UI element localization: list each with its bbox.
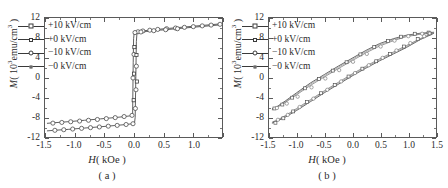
x-tick-label: 0.0: [128, 141, 140, 151]
y-minor-tick-mark: [434, 108, 436, 109]
y-tick-mark: [45, 118, 49, 119]
y-tick-mark: [218, 38, 222, 39]
x-tick-label: 1.5: [431, 141, 443, 151]
x-tick-label: 0.5: [158, 141, 170, 151]
x-tick-mark: [164, 133, 165, 137]
x-minor-tick-mark: [339, 135, 340, 137]
y-tick-mark: [45, 98, 49, 99]
legend-label: −0 kV/cm: [48, 62, 86, 72]
y-tick-mark: [269, 18, 273, 19]
y-minor-tick-mark: [45, 88, 47, 89]
y-tick-mark: [432, 98, 436, 99]
x-tick-mark: [104, 133, 105, 137]
legend-label: +0 kV/cm: [272, 35, 310, 45]
x-tick-label: -0.5: [96, 141, 111, 151]
x-minor-tick-mark: [339, 18, 340, 20]
panel-b: +10 kV/cm +0 kV/cm −10 kV/cm −0 kV/cm: [224, 0, 448, 188]
y-minor-tick-mark: [269, 108, 271, 109]
x-minor-tick-mark: [90, 135, 91, 137]
y-axis-unit-end: ): [232, 19, 243, 25]
x-tick-mark: [437, 133, 438, 137]
y-tick-label: -4: [19, 93, 40, 103]
x-tick-mark: [164, 18, 165, 22]
legend-label: −10 kV/cm: [272, 48, 315, 58]
y-tick-label: 8: [246, 33, 264, 43]
y-tick-mark: [218, 58, 222, 59]
x-minor-tick-mark: [395, 135, 396, 137]
y-tick-label: 12: [246, 13, 264, 23]
legend-label: +10 kV/cm: [48, 21, 91, 31]
y-minor-tick-mark: [220, 128, 222, 129]
y-tick-mark: [432, 118, 436, 119]
x-tick-mark: [104, 18, 105, 22]
legend-label: +10 kV/cm: [272, 21, 315, 31]
legend-item[interactable]: −0 kV/cm: [242, 62, 315, 72]
legend-a: +10 kV/cm +0 kV/cm −10 kV/cm −0 kV/cm: [18, 21, 91, 72]
x-tick-mark: [325, 18, 326, 22]
x-minor-tick-mark: [311, 135, 312, 137]
x-tick-mark: [45, 133, 46, 137]
y-tick-label: 0: [22, 73, 40, 83]
y-axis-unit-pre: ( 10: [232, 64, 243, 80]
y-axis-unit-pre: ( 10: [8, 64, 19, 80]
x-tick-label: -1.0: [66, 141, 81, 151]
y-minor-tick-mark: [434, 48, 436, 49]
y-tick-mark: [218, 138, 222, 139]
legend-item[interactable]: −0 kV/cm: [18, 62, 91, 72]
x-tick-mark: [193, 18, 194, 22]
y-minor-tick-mark: [434, 68, 436, 69]
y-axis-unit-exp2: 3: [230, 25, 238, 29]
y-tick-mark: [269, 78, 273, 79]
y-tick-mark: [45, 78, 49, 79]
panel-caption-a: ( a ): [0, 170, 224, 181]
y-tick-mark: [432, 78, 436, 79]
y-axis-unit-end: ): [8, 19, 19, 25]
y-minor-tick-mark: [434, 88, 436, 89]
y-axis-symbol: M: [8, 80, 19, 88]
x-tick-mark: [409, 133, 410, 137]
y-axis-unit-exp2: 3: [6, 25, 14, 29]
x-tick-mark: [325, 133, 326, 137]
y-tick-mark: [432, 38, 436, 39]
y-axis-unit-post: emu/cm: [8, 28, 19, 60]
x-minor-tick-mark: [149, 135, 150, 137]
y-axis-title: M( 103emu/cm3 ): [232, 14, 243, 94]
legend-marker-line-icon: [18, 62, 44, 72]
x-minor-tick-mark: [395, 18, 396, 20]
x-minor-tick-mark: [283, 135, 284, 137]
y-tick-label: -12: [240, 133, 264, 143]
x-minor-tick-mark: [119, 18, 120, 20]
x-axis-unit: ( kOe ): [316, 154, 346, 165]
y-tick-mark: [45, 18, 49, 19]
y-tick-label: -12: [16, 133, 40, 143]
y-minor-tick-mark: [269, 128, 271, 129]
y-minor-tick-mark: [434, 28, 436, 29]
y-axis-unit-post: emu/cm: [232, 28, 243, 60]
y-minor-tick-mark: [45, 128, 47, 129]
y-axis-unit-exp: 3: [230, 60, 238, 64]
y-minor-tick-mark: [220, 28, 222, 29]
y-tick-label: 4: [246, 53, 264, 63]
y-tick-mark: [432, 18, 436, 19]
x-axis-symbol: H: [308, 154, 316, 165]
y-tick-label: -8: [243, 113, 264, 123]
x-axis-title: H( kOe ): [206, 154, 448, 165]
y-tick-label: -4: [243, 93, 264, 103]
y-minor-tick-mark: [434, 128, 436, 129]
y-minor-tick-mark: [220, 88, 222, 89]
x-tick-label: 0.5: [375, 141, 387, 151]
x-tick-mark: [437, 18, 438, 22]
x-tick-mark: [353, 18, 354, 22]
y-tick-mark: [218, 118, 222, 119]
x-minor-tick-mark: [367, 18, 368, 20]
legend-marker-line-icon: [242, 62, 268, 72]
x-tick-mark: [269, 133, 270, 137]
y-tick-label: 8: [22, 33, 40, 43]
x-axis-symbol: H: [88, 154, 96, 165]
x-tick-label: 0.0: [347, 141, 359, 151]
x-tick-label: -0.5: [316, 141, 331, 151]
x-minor-tick-mark: [149, 18, 150, 20]
y-tick-label: -8: [19, 113, 40, 123]
y-tick-label: 0: [246, 73, 264, 83]
x-tick-mark: [134, 18, 135, 22]
